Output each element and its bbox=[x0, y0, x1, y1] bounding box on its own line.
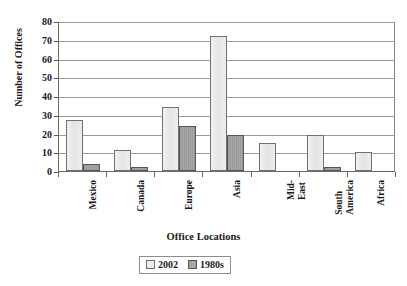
bar-2002 bbox=[66, 120, 83, 171]
bar-2002 bbox=[355, 152, 372, 171]
bar-2002 bbox=[210, 36, 227, 171]
bar-group bbox=[252, 22, 300, 171]
bar-2002 bbox=[307, 135, 324, 171]
bar-group bbox=[155, 22, 203, 171]
bar-1980s bbox=[131, 167, 148, 171]
bar-1980s bbox=[227, 135, 244, 171]
bar-1980s bbox=[324, 167, 341, 171]
y-axis-tick-label: 80 bbox=[24, 17, 52, 27]
x-axis-tick-mark bbox=[395, 172, 396, 177]
x-axis-category-label: South America bbox=[334, 180, 356, 215]
y-axis-tick-label: 20 bbox=[24, 130, 52, 140]
bars-layer bbox=[59, 22, 395, 171]
bar-group bbox=[59, 22, 107, 171]
x-axis-category-label: Africa bbox=[376, 180, 387, 206]
plot-area bbox=[58, 22, 395, 172]
y-axis-tick-label: 10 bbox=[24, 148, 52, 158]
legend-label: 1980s bbox=[200, 259, 224, 270]
bar-2002 bbox=[162, 107, 179, 171]
bar-1980s bbox=[83, 164, 100, 172]
y-axis-tick-label: 50 bbox=[24, 73, 52, 83]
x-axis-tick-mark bbox=[347, 172, 348, 177]
chart-legend: 20021980s bbox=[139, 256, 231, 274]
x-axis-tick-mark bbox=[299, 172, 300, 177]
y-axis-tick-label: 60 bbox=[24, 55, 52, 65]
x-axis-category-label: Mid- East bbox=[286, 180, 308, 200]
bar-chart-figure: Number of Offices 01020304050607080 Mexi… bbox=[0, 0, 407, 286]
bar-group bbox=[203, 22, 251, 171]
x-axis-tick-mark bbox=[202, 172, 203, 177]
x-axis-tick-mark bbox=[251, 172, 252, 177]
bar-2002 bbox=[259, 143, 276, 171]
y-axis-tick-label: 40 bbox=[24, 92, 52, 102]
bar-group bbox=[300, 22, 348, 171]
legend-entry: 1980s bbox=[188, 259, 224, 270]
bar-group bbox=[107, 22, 155, 171]
x-axis-tick-mark bbox=[58, 172, 59, 177]
legend-swatch-icon bbox=[188, 260, 197, 269]
legend-swatch-icon bbox=[146, 260, 155, 269]
bar-1980s bbox=[179, 126, 196, 171]
x-axis-title: Office Locations bbox=[0, 231, 407, 242]
y-axis-tick-label: 70 bbox=[24, 36, 52, 46]
bar-2002 bbox=[114, 150, 131, 171]
x-axis-tick-mark bbox=[154, 172, 155, 177]
y-axis-tick-label: 30 bbox=[24, 111, 52, 121]
legend-label: 2002 bbox=[158, 259, 178, 270]
x-axis-category-label: Mexico bbox=[88, 180, 99, 210]
y-axis-tick-label: 0 bbox=[24, 167, 52, 177]
x-axis-category-label: Canada bbox=[136, 180, 147, 212]
bar-group bbox=[348, 22, 396, 171]
legend-entry: 2002 bbox=[146, 259, 178, 270]
y-axis-title: Number of Offices bbox=[13, 0, 24, 138]
x-axis-tick-mark bbox=[106, 172, 107, 177]
x-axis-category-label: Asia bbox=[232, 180, 243, 198]
y-axis-tick-labels: 01020304050607080 bbox=[24, 22, 52, 172]
x-axis-category-label: Europe bbox=[184, 180, 195, 210]
